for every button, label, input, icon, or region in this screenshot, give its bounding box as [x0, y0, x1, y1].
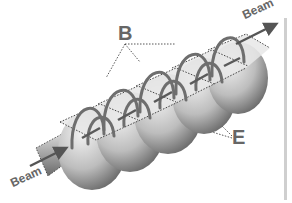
cavity-illustration	[0, 0, 292, 203]
cavity-diagram: B E Beam Beam	[0, 0, 292, 203]
electric-field-label: E	[232, 126, 245, 149]
cavity-cells	[58, 34, 270, 190]
magnetic-field-label: B	[118, 22, 132, 45]
side-divider	[284, 18, 287, 200]
